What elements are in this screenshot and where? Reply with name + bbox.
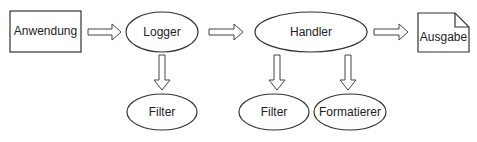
handler-filter-label: Filter <box>239 105 309 119</box>
diagram-canvas <box>0 0 477 142</box>
logger-label: Logger <box>126 25 198 39</box>
anwendung-label: Anwendung <box>10 24 81 38</box>
arrow-handler-formatierer <box>340 55 356 90</box>
arrow-handler-filter <box>269 55 285 90</box>
formatierer-label: Formatierer <box>314 105 386 119</box>
arrow-handler-ausgabe <box>374 24 408 40</box>
arrow-anwendung-logger <box>88 24 121 40</box>
arrow-logger-handler <box>209 24 243 40</box>
ausgabe-label: Ausgabe <box>418 30 469 44</box>
logger-filter-label: Filter <box>127 105 197 119</box>
arrow-logger-filter <box>154 55 170 90</box>
handler-label: Handler <box>255 25 367 39</box>
